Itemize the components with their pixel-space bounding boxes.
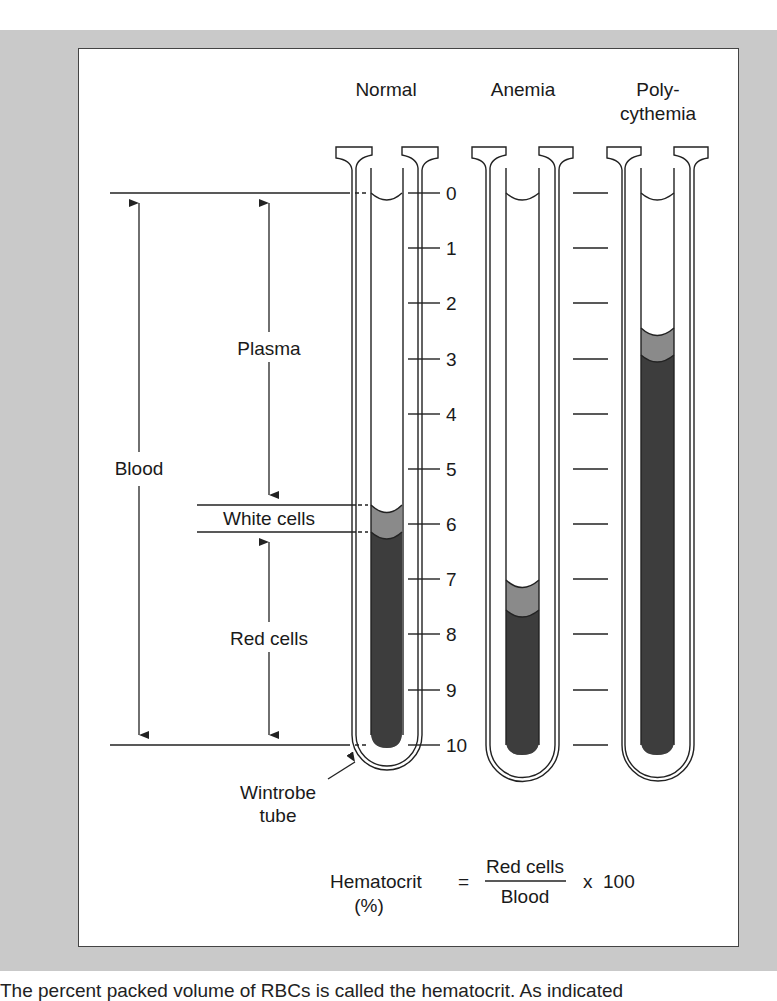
tick-label: 7 — [446, 569, 457, 590]
scale-ticks — [408, 193, 440, 745]
tick-label: 8 — [446, 624, 457, 645]
label-blood: Blood — [115, 458, 164, 479]
tube-normal — [336, 147, 438, 770]
tick-label: 4 — [446, 404, 457, 425]
formula-numerator: Red cells — [486, 856, 564, 877]
dimension-lines — [110, 193, 368, 779]
label-wintrobe-tube-1: Wintrobe — [240, 782, 316, 803]
tick-label: 6 — [446, 514, 457, 535]
tube-anemia — [472, 147, 573, 782]
label-plasma: Plasma — [237, 338, 301, 359]
hematocrit-diagram: Normal Anemia Poly- cythemia — [0, 0, 777, 1001]
tube-polycythemia — [607, 147, 708, 781]
scale-labels: 0 1 2 3 4 5 6 7 8 9 10 — [446, 183, 467, 756]
column-title-normal: Normal — [355, 79, 416, 100]
formula-lhs-unit: (%) — [354, 895, 384, 916]
tick-label: 5 — [446, 459, 457, 480]
column-title-polycythemia-1: Poly- — [636, 79, 679, 100]
formula-equals: = — [458, 871, 469, 892]
tick-label: 0 — [446, 183, 457, 204]
hematocrit-formula: Hematocrit (%) = Red cells Blood x 100 — [330, 856, 635, 916]
tick-label: 1 — [446, 238, 457, 259]
formula-lhs: Hematocrit — [330, 871, 423, 892]
column-title-polycythemia-2: cythemia — [620, 103, 696, 124]
label-white-cells: White cells — [223, 508, 315, 529]
formula-denominator: Blood — [501, 886, 550, 907]
column-title-anemia: Anemia — [491, 79, 556, 100]
scale-dashes-anemia — [573, 193, 608, 745]
tick-label: 9 — [446, 680, 457, 701]
label-wintrobe-tube-2: tube — [260, 805, 297, 826]
formula-multiplier: x 100 — [583, 871, 635, 892]
tick-label: 2 — [446, 293, 457, 314]
label-red-cells: Red cells — [230, 628, 308, 649]
caption-text: The percent packed volume of RBCs is cal… — [0, 980, 777, 1001]
tick-label: 10 — [446, 735, 467, 756]
tick-label: 3 — [446, 349, 457, 370]
